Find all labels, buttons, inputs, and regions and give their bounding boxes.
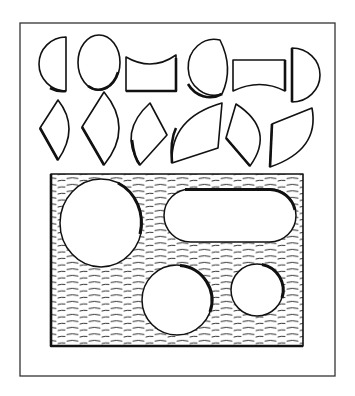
large-circle-hole bbox=[60, 179, 142, 267]
form-board bbox=[51, 174, 303, 346]
medium-circle-hole bbox=[142, 265, 212, 335]
shape-puzzle-figure: Shape puzzle pieces and form board with … bbox=[0, 0, 355, 396]
stadium-hole bbox=[164, 189, 296, 242]
small-circle-hole bbox=[231, 264, 283, 316]
